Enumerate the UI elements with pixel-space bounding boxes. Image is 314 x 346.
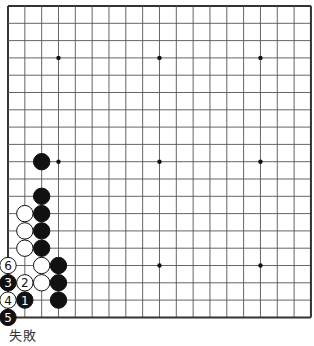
- black-stone: [33, 205, 49, 221]
- move-number-label: 3: [4, 276, 12, 290]
- star-point: [258, 263, 262, 267]
- star-point: [157, 56, 161, 60]
- black-stone: [33, 188, 49, 204]
- white-stone: 2: [17, 275, 33, 291]
- black-stone: 5: [0, 309, 16, 325]
- black-stone: 3: [0, 275, 16, 291]
- white-stone: 6: [0, 257, 16, 273]
- white-stone: [17, 205, 33, 221]
- star-point: [56, 56, 60, 60]
- star-point: [258, 56, 262, 60]
- star-point: [157, 263, 161, 267]
- star-point: [258, 160, 262, 164]
- white-stone: [17, 240, 33, 256]
- black-stone: [33, 240, 49, 256]
- star-point: [56, 160, 60, 164]
- diagram-caption: 失敗: [9, 325, 37, 344]
- move-number-label: 6: [4, 259, 12, 273]
- white-stone: [33, 257, 49, 273]
- black-stone: [50, 257, 66, 273]
- move-number-label: 2: [21, 276, 29, 290]
- move-number-label: 1: [21, 294, 29, 308]
- black-stone: [33, 223, 49, 239]
- black-stone: [50, 292, 66, 308]
- star-point: [157, 160, 161, 164]
- black-stone: [33, 154, 49, 170]
- move-number-label: 5: [4, 311, 12, 325]
- move-number-label: 4: [4, 294, 12, 308]
- black-stone: [50, 275, 66, 291]
- white-stone: [33, 275, 49, 291]
- white-stone: 4: [0, 292, 16, 308]
- black-stone: 1: [17, 292, 33, 308]
- white-stone: [17, 223, 33, 239]
- go-board-diagram: 123456: [0, 0, 314, 346]
